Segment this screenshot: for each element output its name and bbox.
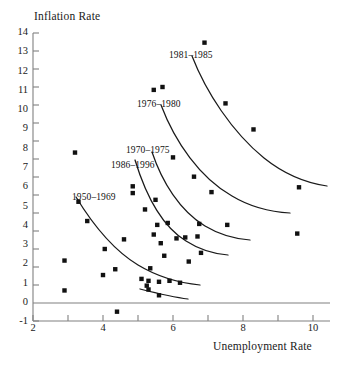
- data-point-marker: [295, 231, 299, 235]
- y-axis-title: Inflation Rate: [34, 10, 100, 22]
- x-tick-label: 10: [304, 322, 322, 333]
- data-point-marker: [199, 251, 203, 255]
- data-point-marker: [187, 259, 191, 263]
- series-annotation: 1981–1985: [169, 50, 213, 60]
- data-point-marker: [167, 279, 171, 283]
- y-tick-label: 0: [10, 296, 28, 307]
- series-annotation: 1970–1975: [126, 145, 170, 155]
- data-points-group: [62, 40, 301, 313]
- data-point-marker: [202, 40, 206, 44]
- phillips-curve-chart: Inflation Rate Unemployment Rate 1413121…: [0, 0, 356, 366]
- data-point-marker: [183, 235, 187, 239]
- data-point-marker: [192, 174, 196, 178]
- fitted-curve: [152, 152, 250, 240]
- y-tick-label: 4: [10, 219, 28, 230]
- fitted-curves-group: [76, 56, 327, 299]
- y-tick-label: 13: [10, 45, 28, 56]
- data-point-marker: [131, 184, 135, 188]
- data-point-marker: [115, 309, 119, 313]
- data-point-marker: [162, 254, 166, 258]
- data-point-marker: [73, 150, 77, 154]
- data-point-marker: [171, 155, 175, 159]
- y-tick-label: 1: [10, 277, 28, 288]
- data-point-marker: [152, 232, 156, 236]
- y-tick-label: 12: [10, 65, 28, 76]
- data-point-marker: [85, 219, 89, 223]
- data-point-marker: [113, 267, 117, 271]
- data-point-marker: [157, 293, 161, 297]
- fitted-curve: [161, 105, 290, 213]
- data-point-marker: [143, 207, 147, 211]
- data-point-marker: [62, 258, 66, 262]
- series-annotation: 1986–1996: [111, 160, 155, 170]
- data-point-marker: [103, 247, 107, 251]
- data-point-marker: [197, 222, 201, 226]
- data-point-marker: [160, 85, 164, 89]
- fitted-curve: [192, 56, 327, 186]
- x-axis-title: Unemployment Rate: [213, 340, 312, 352]
- series-annotation: 1950–1969: [72, 192, 116, 202]
- data-point-marker: [122, 237, 126, 241]
- x-tick-label: 6: [164, 322, 182, 333]
- y-tick-label: 11: [10, 84, 28, 95]
- data-point-marker: [209, 190, 213, 194]
- data-point-marker: [155, 223, 159, 227]
- data-point-marker: [251, 127, 255, 131]
- data-point-marker: [131, 191, 135, 195]
- data-point-marker: [146, 279, 150, 283]
- x-tick-label: 2: [24, 322, 42, 333]
- data-point-marker: [146, 287, 150, 291]
- y-tick-label: 10: [10, 103, 28, 114]
- data-point-marker: [145, 283, 149, 287]
- data-point-marker: [166, 221, 170, 225]
- data-point-marker: [148, 266, 152, 270]
- y-tick-label: 9: [10, 122, 28, 133]
- data-point-marker: [153, 198, 157, 202]
- x-tick-label: 8: [234, 322, 252, 333]
- data-point-marker: [178, 281, 182, 285]
- series-annotation: 1976–1980: [137, 99, 181, 109]
- x-ticks-group: [33, 315, 313, 321]
- data-point-marker: [62, 288, 66, 292]
- x-tick-label: 4: [94, 322, 112, 333]
- y-tick-label: 2: [10, 257, 28, 268]
- y-tick-label: 5: [10, 200, 28, 211]
- data-point-marker: [159, 241, 163, 245]
- data-point-marker: [195, 234, 199, 238]
- axes-group: [33, 33, 330, 321]
- fitted-curve: [76, 197, 200, 285]
- y-tick-label: 3: [10, 238, 28, 249]
- data-point-marker: [174, 236, 178, 240]
- data-point-marker: [225, 223, 229, 227]
- fitted-curve: [135, 160, 228, 255]
- data-point-marker: [152, 88, 156, 92]
- y-tick-label: 8: [10, 142, 28, 153]
- y-tick-label: 7: [10, 161, 28, 172]
- y-tick-label: 6: [10, 180, 28, 191]
- data-point-marker: [101, 273, 105, 277]
- data-point-marker: [297, 185, 301, 189]
- data-point-marker: [223, 101, 227, 105]
- data-point-marker: [139, 277, 143, 281]
- data-point-marker: [157, 280, 161, 284]
- y-ticks-group: [33, 33, 39, 321]
- y-tick-label: 14: [10, 26, 28, 37]
